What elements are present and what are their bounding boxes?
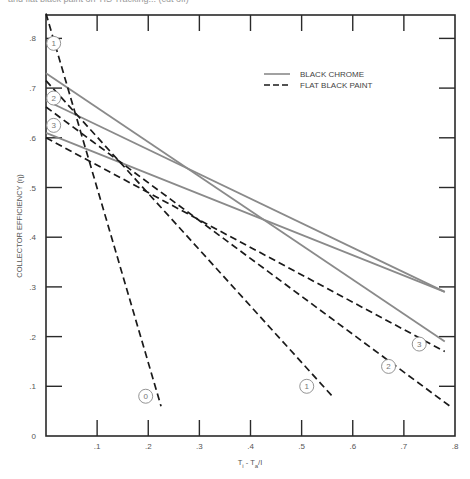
series-line-flat-black-paint-1 <box>46 81 332 397</box>
curve-label-2: 2 <box>382 359 396 373</box>
y-tick-label: .1 <box>29 382 36 391</box>
series-line-black-chrome-3 <box>46 133 445 292</box>
y-tick-label: .7 <box>29 84 36 93</box>
y-tick-label: .5 <box>29 184 36 193</box>
legend: BLACK CHROME FLAT BLACK PAINT <box>264 70 373 90</box>
y-tick-label: .4 <box>29 233 36 242</box>
x-tick-label: .7 <box>401 442 408 451</box>
svg-text:0: 0 <box>143 392 148 401</box>
svg-text:1: 1 <box>305 382 310 391</box>
y-axis-title: COLLECTOR EFFICIENCY (η) <box>15 174 24 278</box>
curve-label-2: 2 <box>47 91 61 105</box>
svg-text:2: 2 <box>51 94 56 103</box>
curve-label-0: 0 <box>139 389 153 403</box>
series-line-flat-black-paint-0 <box>46 14 161 407</box>
curve-label-1: 1 <box>300 379 314 393</box>
svg-text:3: 3 <box>417 340 422 349</box>
x-tick-label: .2 <box>145 442 152 451</box>
x-tick-label: .4 <box>247 442 254 451</box>
data-series <box>46 14 450 407</box>
series-line-black-chrome-2 <box>46 101 445 292</box>
x-tick-label: .6 <box>349 442 356 451</box>
axis-tick-labels: .1.2.3.4.5.6.7.80.1.2.3.4.5.6.7.8 <box>29 34 459 451</box>
y-tick-label: .8 <box>29 34 36 43</box>
curve-label-1: 1 <box>47 36 61 50</box>
curve-label-3: 3 <box>412 337 426 351</box>
x-tick-label: .3 <box>196 442 203 451</box>
x-tick-label: .1 <box>94 442 101 451</box>
x-tick-label: .8 <box>452 442 459 451</box>
y-tick-label: 0 <box>32 432 37 441</box>
x-axis-title: Ti - Ta/I <box>238 458 263 469</box>
legend-label-black-chrome: BLACK CHROME <box>300 70 364 79</box>
svg-text:2: 2 <box>386 362 391 371</box>
y-tick-label: .3 <box>29 283 36 292</box>
series-line-flat-black-paint-3 <box>46 138 445 352</box>
y-tick-label: .6 <box>29 134 36 143</box>
svg-text:3: 3 <box>51 121 56 130</box>
efficiency-chart: .1.2.3.4.5.6.7.80.1.2.3.4.5.6.7.8 123012… <box>0 0 470 479</box>
legend-label-flat-black-paint: FLAT BLACK PAINT <box>300 81 373 90</box>
curve-label-3: 3 <box>47 118 61 132</box>
y-tick-label: .2 <box>29 333 36 342</box>
x-tick-label: .5 <box>298 442 305 451</box>
svg-text:1: 1 <box>51 39 56 48</box>
curve-labels: 1230123 <box>47 36 427 403</box>
